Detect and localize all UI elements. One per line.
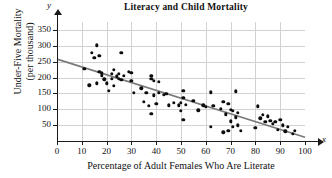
x-axis-title: Percentage of Adult Females Who Are Lite… — [36, 160, 326, 171]
y-tick — [53, 30, 57, 31]
y-axis-line — [57, 14, 58, 141]
y-tick — [53, 125, 57, 126]
y-tick — [53, 93, 57, 94]
x-tick-label: 100 — [292, 146, 318, 156]
x-tick-label: 90 — [267, 146, 293, 156]
x-tick — [57, 141, 58, 145]
x-tick — [231, 141, 232, 145]
x-axis-variable-name: x — [322, 134, 326, 144]
y-axis-title-line-1: Under-Five Mortality — [12, 0, 24, 122]
x-tick-label: 70 — [218, 146, 244, 156]
y-tick — [53, 46, 57, 47]
y-axis-title: Under-Five Mortality (per thousand) — [12, 0, 35, 122]
chart-title: Literacy and Child Mortality — [96, 2, 276, 12]
x-tick — [82, 141, 83, 145]
x-tick-label: 40 — [143, 146, 169, 156]
x-tick — [255, 141, 256, 145]
x-tick-label: 80 — [242, 146, 268, 156]
plot-area — [57, 22, 305, 141]
x-tick-label: 50 — [168, 146, 194, 156]
x-tick — [107, 141, 108, 145]
y-tick — [53, 62, 57, 63]
x-tick — [181, 141, 182, 145]
x-tick-label: 30 — [118, 146, 144, 156]
x-tick — [280, 141, 281, 145]
x-tick — [156, 141, 157, 145]
y-axis-variable-name: y — [47, 0, 51, 10]
x-tick-label: 0 — [44, 146, 70, 156]
y-axis-title-line-2: (per thousand) — [23, 0, 35, 122]
x-tick — [305, 141, 306, 145]
x-tick — [131, 141, 132, 145]
x-tick-label: 60 — [193, 146, 219, 156]
x-tick-label: 10 — [69, 146, 95, 156]
x-tick-label: 20 — [94, 146, 120, 156]
y-tick — [53, 109, 57, 110]
x-tick — [206, 141, 207, 145]
chart-figure: Literacy and Child Mortality 01020304050… — [0, 0, 332, 178]
y-axis-arrow — [54, 9, 62, 15]
y-tick — [53, 78, 57, 79]
